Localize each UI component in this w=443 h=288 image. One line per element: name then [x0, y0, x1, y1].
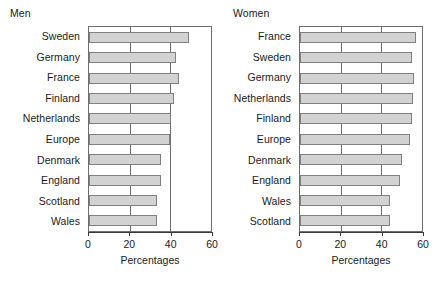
category-label: Europe [221, 129, 295, 150]
x-axis-ticks-men: 0204060 [88, 232, 212, 254]
bars-women [300, 27, 422, 231]
bar-row [300, 170, 422, 190]
category-label: Germany [221, 67, 295, 88]
category-label: Denmark [0, 150, 84, 171]
bar-row [89, 68, 211, 88]
x-tick [171, 232, 172, 236]
bar [300, 175, 400, 186]
bar [89, 134, 170, 145]
bar [89, 154, 161, 165]
category-labels-men: SwedenGermanyFranceFinlandNetherlandsEur… [0, 26, 84, 232]
bar [300, 32, 416, 43]
category-label: Germany [0, 47, 84, 68]
bar-row [89, 109, 211, 129]
category-label: Scotland [221, 211, 295, 232]
category-label: Scotland [0, 191, 84, 212]
x-tick [129, 232, 130, 236]
category-label: Netherlands [0, 108, 84, 129]
bar-row [89, 47, 211, 67]
category-label: Finland [0, 88, 84, 109]
panel-women: Women FranceSwedenGermanyNetherlandsFinl… [221, 0, 442, 288]
x-tick-label: 20 [123, 238, 135, 250]
panel-title-women: Women [233, 7, 270, 19]
category-label: England [0, 170, 84, 191]
dual-bar-chart-figure: Men SwedenGermanyFranceFinlandNetherland… [0, 0, 443, 288]
bar-row [300, 88, 422, 108]
bar [89, 73, 179, 84]
bar-row [300, 109, 422, 129]
x-tick-label: 0 [85, 238, 91, 250]
category-label: Wales [221, 191, 295, 212]
panel-title-men: Men [10, 7, 31, 19]
x-tick-label: 60 [417, 238, 429, 250]
bars-men [89, 27, 211, 231]
x-tick-label: 40 [376, 238, 388, 250]
bar-row [89, 88, 211, 108]
x-tick-label: 60 [206, 238, 218, 250]
bar-row [89, 129, 211, 149]
bar [300, 73, 414, 84]
x-tick-label: 0 [296, 238, 302, 250]
bar-row [300, 68, 422, 88]
x-tick [382, 232, 383, 236]
bar [300, 113, 412, 124]
bar [300, 195, 390, 206]
category-label: Netherlands [221, 88, 295, 109]
category-label: France [0, 67, 84, 88]
bar [300, 154, 402, 165]
x-tick [299, 232, 300, 236]
category-label: Europe [0, 129, 84, 150]
bar-row [300, 47, 422, 67]
x-tick [212, 232, 213, 236]
category-labels-women: FranceSwedenGermanyNetherlandsFinlandEur… [221, 26, 295, 232]
category-label: France [221, 26, 295, 47]
bar [89, 215, 157, 226]
plot-area-women [299, 26, 423, 232]
category-label: Sweden [221, 47, 295, 68]
category-label: England [221, 170, 295, 191]
bar-row [300, 129, 422, 149]
x-tick-label: 40 [165, 238, 177, 250]
bar [89, 195, 157, 206]
bar-row [89, 211, 211, 231]
category-label: Finland [221, 108, 295, 129]
x-tick [340, 232, 341, 236]
bar-row [300, 190, 422, 210]
bar-row [300, 27, 422, 47]
x-axis-title-men: Percentages [88, 254, 212, 266]
bar-row [89, 149, 211, 169]
bar [89, 32, 189, 43]
x-tick [88, 232, 89, 236]
bar-row [89, 170, 211, 190]
category-label: Wales [0, 211, 84, 232]
bar [89, 113, 171, 124]
plot-area-men [88, 26, 212, 232]
bar [89, 93, 174, 104]
x-axis-ticks-women: 0204060 [299, 232, 423, 254]
bar [300, 52, 412, 63]
bar-row [300, 211, 422, 231]
bar [300, 215, 390, 226]
panel-men: Men SwedenGermanyFranceFinlandNetherland… [0, 0, 221, 288]
bar [89, 52, 176, 63]
bar [89, 175, 161, 186]
x-tick [423, 232, 424, 236]
x-tick-label: 20 [334, 238, 346, 250]
bar-row [89, 190, 211, 210]
bar [300, 134, 410, 145]
x-axis-title-women: Percentages [299, 254, 423, 266]
bar-row [89, 27, 211, 47]
category-label: Sweden [0, 26, 84, 47]
category-label: Denmark [221, 150, 295, 171]
bar [300, 93, 413, 104]
bar-row [300, 149, 422, 169]
